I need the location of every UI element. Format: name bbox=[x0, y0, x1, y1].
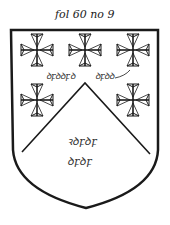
center-text-line2: ꝺꝼꝺꝼ bbox=[67, 153, 92, 168]
right-scroll-text: ꝺꝼꝺꝺ bbox=[95, 69, 114, 82]
center-text-line1: ꝛꝺꝼꝺꝼ bbox=[67, 133, 97, 148]
left-scroll-text: ꝺꝼꝺꝺꝼꝺ bbox=[46, 69, 75, 82]
shield-drawing bbox=[0, 0, 170, 225]
